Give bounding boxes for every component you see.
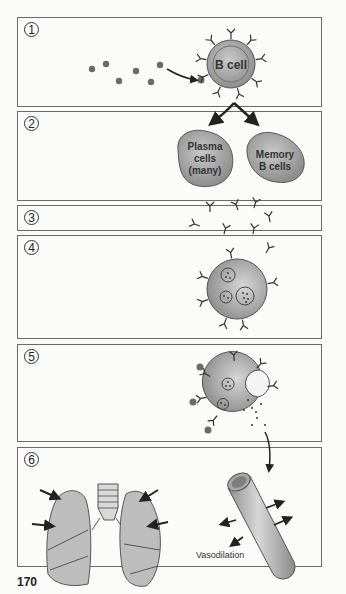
panel-4: 4 <box>17 235 322 339</box>
step-number: 6 <box>24 452 39 467</box>
step-number: 2 <box>24 116 39 131</box>
step-number: 3 <box>24 210 39 225</box>
step-number: 5 <box>24 349 39 364</box>
panel-6: 6 <box>17 447 322 567</box>
page-number: 170 <box>17 575 37 589</box>
panel-5: 5 <box>17 344 322 442</box>
panel-2: 2 <box>17 111 322 201</box>
step-number: 4 <box>24 240 39 255</box>
panel-3: 3 <box>17 205 322 231</box>
step-number: 1 <box>24 22 39 37</box>
panel-1: 1 <box>17 17 322 107</box>
